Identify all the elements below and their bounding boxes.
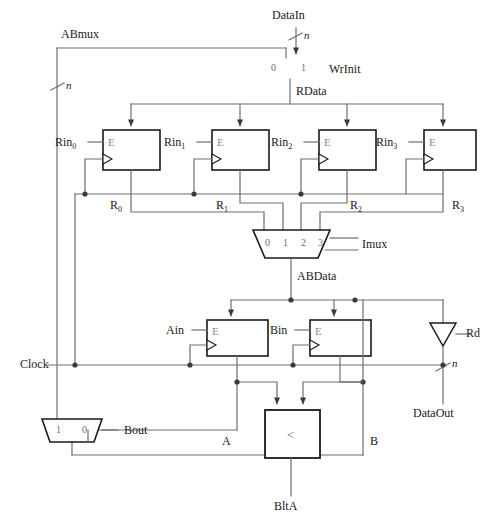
circuit-diagram-canvas: ABmux n DataIn n 0 1 WrInit RData Rin0 R… <box>0 0 493 526</box>
label-wrinit: WrInit <box>329 63 361 75</box>
imux-input-2: 2 <box>301 238 306 248</box>
junction-dot-clock-right <box>440 362 445 367</box>
label-r3-sub: 3 <box>460 205 464 214</box>
wire-clock-to-ain <box>190 345 207 365</box>
label-rin3-sub: 3 <box>393 142 397 151</box>
label-rin0: Rin0 <box>55 136 76 151</box>
label-r2-text: R <box>350 198 358 212</box>
enable-glyph-r1: E <box>217 137 224 148</box>
junction-dot-clock-r1 <box>191 191 196 196</box>
label-dataout: DataOut <box>413 407 454 419</box>
junction-dot-clock-bin <box>290 362 295 367</box>
enable-glyph-r3: E <box>429 137 436 148</box>
label-clock: Clock <box>20 358 49 370</box>
enable-glyph-r0: E <box>108 137 115 148</box>
tristate-rd-shape <box>430 323 456 346</box>
label-bita: BltA <box>274 500 297 512</box>
wire-clock-to-bin <box>293 345 310 365</box>
comparator-symbol: < <box>287 428 294 441</box>
diagram-svg <box>0 0 493 526</box>
label-r2: R2 <box>350 199 362 214</box>
enable-glyph-r2: E <box>324 137 331 148</box>
wire-b-into-comparator <box>303 382 363 404</box>
wire-r2-to-imux <box>301 170 347 230</box>
bout-mux-input-0: 0 <box>82 425 87 435</box>
label-rin2: Rin2 <box>271 136 292 151</box>
junction-dot-clock-lower <box>72 362 77 367</box>
bout-mux-shape <box>42 419 102 442</box>
label-r1: R1 <box>216 199 228 214</box>
label-rin1-text: Rin <box>164 135 181 149</box>
label-r2-sub: 2 <box>358 205 362 214</box>
junction-dot-a-bus <box>234 379 239 384</box>
width-label-abmux: n <box>66 80 72 91</box>
width-label-datain: n <box>304 30 310 41</box>
label-b-bus: B <box>370 435 378 447</box>
label-r3-text: R <box>452 198 460 212</box>
wire-layer <box>42 28 476 496</box>
label-datain: DataIn <box>272 9 305 21</box>
imux-input-3: 3 <box>318 238 323 248</box>
label-abdata: ABData <box>297 270 336 282</box>
label-r0: R0 <box>110 199 122 214</box>
label-r1-sub: 1 <box>224 205 228 214</box>
imux-input-1: 1 <box>283 238 288 248</box>
junction-dot-abdata-b <box>352 297 357 302</box>
wire-a-into-comparator <box>237 382 277 404</box>
wire-clock-to-r3 <box>406 159 424 194</box>
label-r3: R3 <box>452 199 464 214</box>
junction-dot-clock-r0 <box>82 191 87 196</box>
label-ain: Ain <box>166 324 184 336</box>
label-rdata: RData <box>296 85 327 97</box>
label-abmux: ABmux <box>61 28 99 40</box>
label-r0-text: R <box>110 198 118 212</box>
wrinit-mux-input-1: 1 <box>301 63 306 73</box>
wire-clock-to-r2 <box>301 159 319 194</box>
imux-input-0: 0 <box>265 238 270 248</box>
label-rin0-sub: 0 <box>72 142 76 151</box>
label-a-bus: A <box>222 435 231 447</box>
junction-dot-abdata <box>288 297 293 302</box>
label-rin3: Rin3 <box>376 136 397 151</box>
enable-glyph-bin: E <box>315 326 322 337</box>
label-bin: Bin <box>270 324 287 336</box>
junction-dot-clock-ain <box>187 362 192 367</box>
wire-clock-to-r1 <box>194 159 212 194</box>
label-rin3-text: Rin <box>376 135 393 149</box>
label-imux: Imux <box>362 238 387 250</box>
label-rin1: Rin1 <box>164 136 185 151</box>
wire-r3-to-imux <box>320 170 443 230</box>
label-rin2-text: Rin <box>271 135 288 149</box>
junction-dot-clock-r2 <box>298 191 303 196</box>
wire-clock-to-r0 <box>85 159 103 194</box>
label-rin2-sub: 2 <box>288 142 292 151</box>
label-rin0-text: Rin <box>55 135 72 149</box>
bout-mux-input-1: 1 <box>56 425 61 435</box>
label-bout: Bout <box>124 424 147 436</box>
wire-r1-to-imux <box>240 170 283 230</box>
wrinit-mux-input-0: 0 <box>271 63 276 73</box>
width-label-dataout: n <box>452 358 458 369</box>
label-r0-sub: 0 <box>118 205 122 214</box>
label-r1-text: R <box>216 198 224 212</box>
enable-glyph-ain: E <box>212 326 219 337</box>
label-rd: Rd <box>466 327 480 339</box>
label-rin1-sub: 1 <box>181 142 185 151</box>
wire-r0-to-imux <box>131 170 264 230</box>
